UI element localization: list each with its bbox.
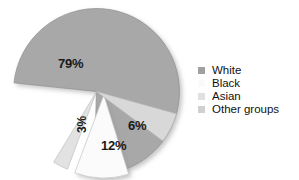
legend-item-black: Black xyxy=(198,77,299,90)
legend-label-asian: Asian xyxy=(212,90,241,103)
legend-item-other-groups: Other groups xyxy=(198,103,299,116)
legend-label-other-groups: Other groups xyxy=(212,103,279,116)
pie-svg xyxy=(0,0,190,180)
chart-legend: White Black Asian Other groups xyxy=(198,64,299,116)
legend-swatch-icon-other-groups xyxy=(198,106,205,113)
legend-label-black: Black xyxy=(212,77,240,90)
legend-swatch-icon-black xyxy=(198,80,205,87)
legend-item-white: White xyxy=(198,64,299,77)
legend-label-white: White xyxy=(212,64,241,77)
slice-label-other: 6% xyxy=(128,119,146,132)
pie-chart: 79% 12% 3% 6% White Black Asian Other gr… xyxy=(0,0,299,180)
legend-swatch-icon-asian xyxy=(198,93,205,100)
pie-graphic: 79% 12% 3% 6% xyxy=(0,0,190,180)
slice-label-asian: 3% xyxy=(76,116,88,133)
legend-swatch-icon-white xyxy=(198,67,205,74)
legend-item-asian: Asian xyxy=(198,90,299,103)
slice-label-black: 12% xyxy=(101,139,126,152)
slice-label-white: 79% xyxy=(58,57,83,70)
